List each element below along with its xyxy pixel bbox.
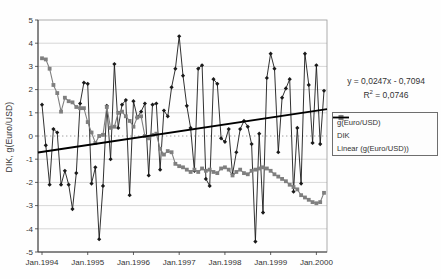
dik-series-point <box>193 168 197 172</box>
trendline-legend-marker-icon <box>333 113 349 122</box>
g-series-point <box>116 126 120 130</box>
dik-series-point <box>82 106 86 110</box>
g-series-point <box>108 157 112 161</box>
chart-figure: -5-4-3-2-1012345Jan.1994Jan.1995Jan.1996… <box>0 0 441 279</box>
legend-label-dik-series: DIK <box>337 131 350 140</box>
legend: g(Euro/USD) DIK Linear (g(Euro/USD)) <box>332 112 438 156</box>
dik-series-point <box>208 168 212 172</box>
trendline <box>38 109 327 152</box>
dik-series-point <box>196 170 200 174</box>
dik-series-point <box>261 165 265 169</box>
g-series-point <box>204 177 208 181</box>
g-series-point <box>177 34 181 38</box>
g-series-point <box>154 101 158 105</box>
dik-series-point <box>215 171 219 175</box>
g-series-point <box>78 101 82 105</box>
dik-series-point <box>71 100 75 104</box>
dik-series-point <box>322 191 326 195</box>
dik-series-point <box>170 150 174 154</box>
g-series-line <box>42 36 324 241</box>
g-series-point <box>59 183 63 187</box>
g-series-point <box>101 184 105 188</box>
y-tick-label: 1 <box>29 109 34 118</box>
dik-series-point <box>219 167 223 171</box>
x-tick-label: Jan.1996 <box>117 258 150 267</box>
r-squared-line: R2 = 0,0746 <box>331 87 441 101</box>
y-tick-label: -5 <box>26 248 34 257</box>
dik-series-point <box>311 200 315 204</box>
dik-series-point <box>48 67 52 71</box>
y-tick-label: 3 <box>29 62 34 71</box>
g-series-point <box>169 85 173 89</box>
dik-series-point <box>97 134 101 138</box>
dik-series-point <box>120 110 124 114</box>
g-series-point <box>280 96 284 100</box>
legend-item-g-series: g(Euro/USD) <box>337 116 437 129</box>
dik-series-point <box>109 126 113 130</box>
dik-series-point <box>265 167 269 171</box>
dik-series-point <box>284 179 288 183</box>
g-series-point <box>253 239 257 243</box>
g-series-point <box>208 184 212 188</box>
dik-series-point <box>59 110 63 114</box>
g-series-point <box>82 81 86 85</box>
g-series-point <box>257 132 261 136</box>
x-tick-label: Jan.1995 <box>71 258 104 267</box>
dik-series-point <box>63 96 67 100</box>
g-series-point <box>112 62 116 66</box>
g-series-point <box>318 142 322 146</box>
g-series-point <box>131 99 135 103</box>
y-axis-title: DIK, g(Euro/USD) <box>4 102 14 173</box>
dik-series-point <box>90 131 94 135</box>
dik-series-point <box>166 149 170 153</box>
dik-series-point <box>231 174 235 178</box>
dik-series-point <box>288 183 292 187</box>
trendline-equation: y = 0,0247x - 0,7094 R2 = 0,0746 <box>331 76 441 101</box>
g-series-point <box>265 76 269 80</box>
dik-series-point <box>173 162 177 166</box>
legend-label-trendline: Linear (g(Euro/USD)) <box>337 144 409 153</box>
x-tick-label: Jan.1994 <box>26 258 59 267</box>
dik-series-point <box>212 170 216 174</box>
dik-series-point <box>55 91 59 95</box>
legend-item-trendline: Linear (g(Euro/USD)) <box>337 142 437 155</box>
dik-series-point <box>40 56 44 60</box>
g-series-point <box>269 52 273 56</box>
dik-series-point <box>254 168 258 172</box>
x-tick-label: Jan.1998 <box>208 258 241 267</box>
dik-series-point <box>113 125 117 129</box>
dik-series-point <box>227 168 231 172</box>
dik-series-point <box>116 111 120 115</box>
dik-series-point <box>135 116 139 120</box>
dik-series-point <box>314 201 318 205</box>
dik-series-point <box>276 175 280 179</box>
dik-series-point <box>234 170 238 174</box>
dik-series-point <box>273 172 277 176</box>
g-series-point <box>143 101 147 105</box>
dik-series-point <box>303 196 307 200</box>
dik-series-point <box>162 153 166 157</box>
dik-series-point <box>242 171 246 175</box>
dik-series-point <box>128 119 132 123</box>
dik-series-point <box>177 164 181 168</box>
g-series-point <box>173 67 177 71</box>
dik-series-point <box>132 125 136 129</box>
dik-series-point <box>101 133 105 137</box>
dik-series-point <box>185 168 189 172</box>
g-series-point <box>288 77 292 81</box>
dik-series-point <box>238 168 242 172</box>
dik-series-point <box>181 165 185 169</box>
legend-item-dik-series: DIK <box>337 129 437 142</box>
g-series-point <box>238 127 242 131</box>
y-tick-label: 2 <box>29 85 34 94</box>
dik-series-point <box>189 170 193 174</box>
g-series-point <box>63 169 67 173</box>
dik-series-point <box>86 120 90 124</box>
g-series-point <box>97 237 101 241</box>
dik-series-point <box>280 177 284 181</box>
dik-series-point <box>250 169 254 173</box>
y-tick-label: -4 <box>26 225 34 234</box>
x-tick-label: Jan.2000 <box>300 258 333 267</box>
g-series-point <box>150 103 154 107</box>
y-tick-label: 0 <box>29 132 34 141</box>
